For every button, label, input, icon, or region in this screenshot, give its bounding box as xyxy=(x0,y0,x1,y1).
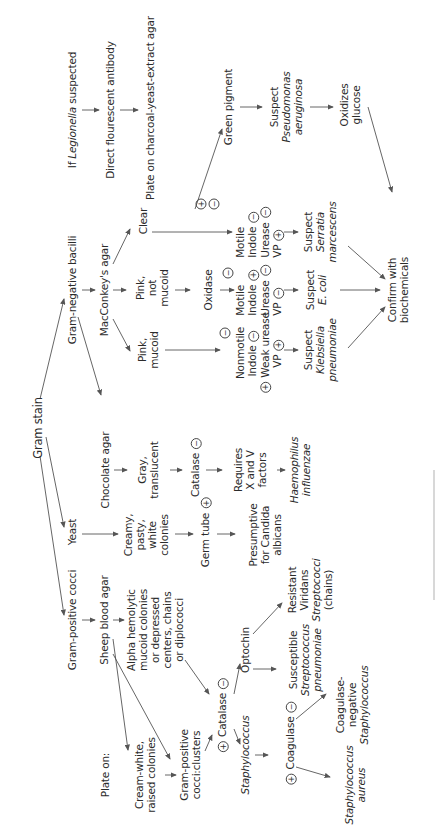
text: mucoid colonies xyxy=(137,589,149,671)
test-row: Urease − xyxy=(259,206,272,258)
text: Pseudomonas xyxy=(280,71,292,142)
legionella-suspected-node: If Legionella suspected xyxy=(66,52,78,168)
page-edge-divider xyxy=(433,470,435,600)
creamy-colonies-node: Creamy, pasty, white colonies xyxy=(122,514,170,557)
text: Alpha hemolytic xyxy=(125,589,137,671)
text: Klebsiella xyxy=(314,318,326,382)
test-row: Motile xyxy=(234,264,246,316)
text: marcescens xyxy=(326,201,338,262)
confirm-biochemicals-node: Confirm with biochemicals xyxy=(386,257,410,323)
test-row: + Weak urease xyxy=(259,312,272,394)
gram-stain-root: Gram stain xyxy=(32,397,44,459)
text: Germ tube xyxy=(199,513,211,567)
text: Suspect xyxy=(302,201,314,262)
test-row: Indole − xyxy=(246,312,259,394)
text: factors xyxy=(256,448,268,492)
text: Staphylococcus xyxy=(358,665,370,744)
ecoli-oxidase-sign: − xyxy=(223,268,234,279)
green-pigment-node: Green pigment xyxy=(222,69,234,145)
serratia-node: Suspect Serratia marcescens xyxy=(302,201,338,262)
oxidase-node: Oxidase xyxy=(202,269,214,310)
text: centers, chains xyxy=(161,589,173,671)
text: Suspect xyxy=(268,71,280,142)
text: or depressed xyxy=(149,589,161,671)
text: pneumoniae xyxy=(326,318,338,382)
text: white xyxy=(146,514,158,557)
text: pasty, xyxy=(134,514,146,557)
text: Viridans xyxy=(298,558,310,621)
cocci-clusters-node: Gram-positive cocci:clusters xyxy=(178,729,202,801)
text: (chains) xyxy=(322,558,334,621)
text: Requires xyxy=(232,448,244,492)
cream-white-node: Cream-white, raised colonies xyxy=(133,737,157,813)
oxidase-negative-sign: − xyxy=(209,199,220,210)
klebsiella-node: Suspect Klebsiella pneumoniae xyxy=(302,318,338,382)
text: influenzae xyxy=(300,437,312,504)
gp-catalase-node: + Catalase − xyxy=(216,677,229,753)
flowchart-canvas: If Legionella suspected Direct flouresce… xyxy=(0,0,437,829)
ecoli-tests-node: Motile Indole + Urease − VP − xyxy=(234,264,284,316)
text: Oxidizes xyxy=(338,84,350,127)
test-row: Indole − xyxy=(246,206,259,258)
oxidizes-glucose-node: Oxidizes glucose xyxy=(338,84,362,127)
text: or diplococci xyxy=(173,589,185,671)
pink-mucoid-node: Pink, mucoid xyxy=(136,331,160,368)
catalase-sign: − xyxy=(190,438,201,449)
optochin-node: Optochin xyxy=(239,627,251,673)
text: Suspect xyxy=(302,318,314,382)
text: Coagulase- xyxy=(334,665,346,744)
pink-not-mucoid-node: Pink, not mucoid xyxy=(134,269,170,306)
text: Streptococcus xyxy=(299,624,311,696)
text: Cream-white, xyxy=(133,737,145,813)
text: colonies xyxy=(158,514,170,557)
test-row: Indole + xyxy=(246,264,259,316)
text: negative xyxy=(346,665,358,744)
text: not xyxy=(146,269,158,306)
text: Gram-positive xyxy=(178,729,190,801)
chocolate-catalase-node: Catalase − xyxy=(189,437,202,497)
text: Suspect xyxy=(304,270,316,310)
text: X and V xyxy=(244,448,256,492)
text: aeruginosa xyxy=(292,71,304,142)
alpha-hemolytic-node: Alpha hemolytic mucoid colonies or depre… xyxy=(125,589,185,671)
requires-xv-node: Requires X and V factors xyxy=(232,448,268,492)
text: pneumoniae xyxy=(311,624,323,696)
text: Streptococci xyxy=(310,558,322,621)
text: Pink, xyxy=(136,331,148,368)
serratia-tests-node: Motile Indole − Urease − VP + xyxy=(234,206,284,258)
text: suspected xyxy=(66,52,78,107)
coagulase-positive-sign: + xyxy=(285,774,296,785)
test-row: Motile xyxy=(234,206,246,258)
text: Pink, xyxy=(134,269,146,306)
text: Susceptible xyxy=(287,624,299,696)
text: Legionella xyxy=(66,107,78,159)
test-row: VP + xyxy=(271,312,284,394)
text: Serratia xyxy=(314,201,326,262)
text: Confirm with xyxy=(386,257,398,323)
text: biochemicals xyxy=(398,257,410,323)
text: albicans xyxy=(271,503,283,566)
catalase-positive-sign: + xyxy=(217,741,228,752)
plate-on-label: Plate on: xyxy=(99,753,111,797)
coagulase-negative-sign: − xyxy=(285,701,296,712)
dfa-node: Direct flourescent antibody xyxy=(104,41,116,179)
sheep-blood-agar-node: Sheep blood agar xyxy=(98,575,110,664)
gram-positive-node: Gram-positive cocci xyxy=(66,570,78,670)
text: mucoid xyxy=(158,269,170,306)
germ-tube-sign: + xyxy=(200,498,211,509)
oxidase-positive-sign: + xyxy=(196,199,207,210)
yeast-node: Yeast xyxy=(66,519,78,546)
text: glucose xyxy=(350,84,362,127)
text: Resistant xyxy=(286,558,298,621)
resistant-node: Resistant Viridans Streptococci (chains) xyxy=(286,558,334,621)
text: Gray, xyxy=(136,441,148,498)
test-row: VP + xyxy=(271,206,284,258)
candida-node: Presumptive for Candida albicans xyxy=(247,503,283,566)
gram-negative-node: Gram-negative bacilli xyxy=(66,236,78,345)
susceptible-node: Susceptible Streptococcus pneumoniae xyxy=(287,624,323,696)
text: aureus xyxy=(355,745,367,824)
text: raised colonies xyxy=(145,737,157,813)
text: Creamy, xyxy=(122,514,134,557)
text: for Candida xyxy=(259,503,271,566)
macconkey-node: MacConkey's agar xyxy=(98,244,110,336)
